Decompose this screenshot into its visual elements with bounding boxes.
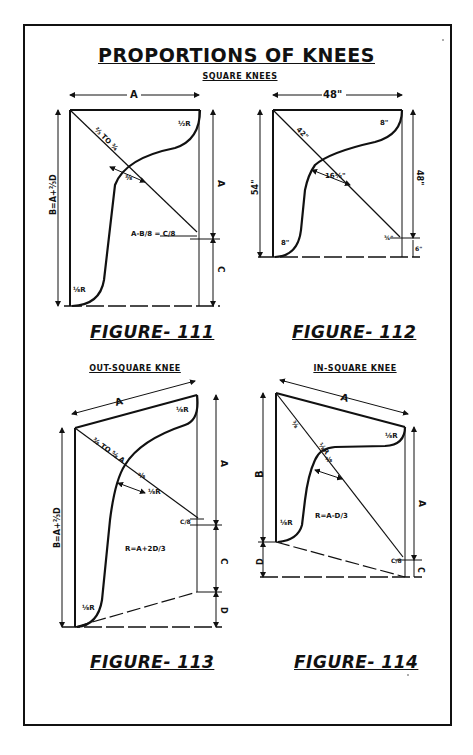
svg-text:8": 8" (380, 119, 389, 127)
svg-text:A: A (339, 391, 350, 404)
svg-text:54": 54" (251, 180, 260, 195)
svg-text:⅛R: ⅛R (148, 488, 161, 496)
figure-114-annotations: A B D A C ⅜ ⅛R ⅜ ⅛R ⅛R R=A-D/3 C/8 (254, 391, 427, 573)
svg-text:C: C (219, 558, 229, 565)
svg-text:⅛R: ⅛R (385, 432, 398, 440)
svg-text:⅛R: ⅛R (73, 286, 86, 294)
svg-text:D: D (256, 558, 265, 565)
svg-text:A: A (114, 395, 125, 408)
figure-113-annotations: A B=A+⅔D A C D ⅜ TO ⅝ A ⅜ ⅛R ⅛R ⅛R R=A+2… (53, 395, 229, 614)
svg-text:A: A (417, 500, 427, 507)
svg-text:A: A (219, 460, 229, 467)
svg-text:D: D (219, 607, 228, 614)
svg-text:B=A+⅔D: B=A+⅔D (49, 174, 58, 215)
figure-111-drawing (58, 95, 220, 306)
svg-text:⅜: ⅜ (289, 419, 300, 430)
svg-text:A: A (216, 180, 226, 187)
svg-text:B: B (254, 470, 265, 478)
svg-text:½R: ½R (178, 120, 191, 128)
svg-text:C/8: C/8 (180, 518, 191, 525)
svg-text:C: C (416, 567, 425, 573)
svg-text:C/8: C/8 (391, 557, 402, 564)
svg-text:42": 42" (295, 126, 310, 141)
svg-text:8": 8" (281, 239, 290, 247)
svg-text:¾": ¾" (384, 234, 393, 241)
svg-text:⅜ TO ⅝ A: ⅜ TO ⅝ A (91, 436, 127, 465)
knee-drawings: A B=A+⅔D A C ⅔ TO ¾ ⅜ ½R ⅛R A-B/8 = C/8 … (0, 0, 473, 755)
svg-text:R=A+2D/3: R=A+2D/3 (125, 545, 166, 553)
svg-text:⅛R: ⅛R (82, 604, 95, 612)
svg-text:⅜: ⅜ (325, 456, 332, 464)
figure-112-annotations: 48" 54" 48" 6" 42" 16½" 8" 8" ¾" (251, 88, 424, 252)
figure-113-drawing (62, 381, 222, 627)
svg-text:⅛R: ⅛R (176, 406, 189, 414)
svg-text:A: A (130, 89, 138, 100)
svg-text:48": 48" (323, 89, 342, 100)
figure-114-drawing (258, 380, 422, 577)
svg-text:⅛R: ⅛R (280, 519, 293, 527)
svg-text:48": 48" (415, 170, 424, 185)
svg-text:⅜: ⅜ (138, 472, 145, 480)
svg-text:R=A-D/3: R=A-D/3 (315, 512, 348, 520)
svg-text:C: C (216, 266, 226, 273)
svg-text:16½": 16½" (325, 172, 346, 180)
svg-text:⅜: ⅜ (125, 174, 132, 182)
svg-text:6": 6" (415, 245, 422, 252)
svg-text:⅔ TO ¾: ⅔ TO ¾ (93, 126, 120, 153)
svg-text:B=A+⅔D: B=A+⅔D (53, 507, 62, 548)
svg-text:A-B/8 = C/8: A-B/8 = C/8 (131, 230, 176, 238)
